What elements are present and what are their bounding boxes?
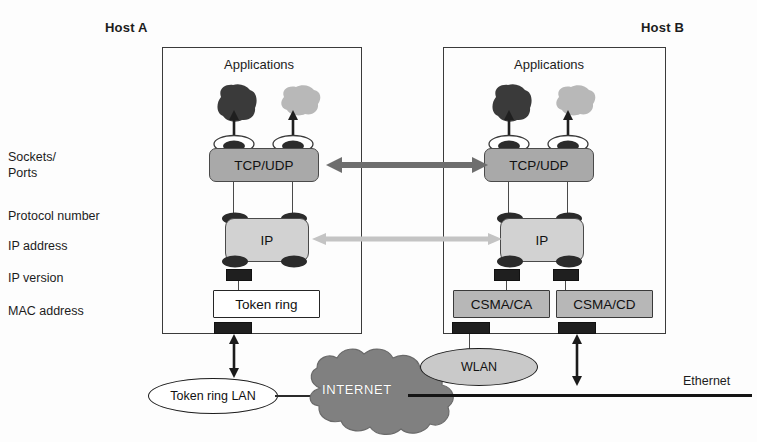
network-ethernet-bus[interactable] (408, 394, 752, 397)
network-stack-diagram: Host A Host B Sockets/ Ports Protocol nu… (0, 0, 757, 442)
host-b-link-box-csma-ca[interactable]: CSMA/CA (453, 290, 550, 318)
host-b-applications-label: Applications (514, 57, 584, 72)
host-b-link-box-csma-cd[interactable]: CSMA/CD (556, 290, 653, 318)
network-token-ring-lan-label: Token ring LAN (170, 389, 255, 403)
host-b-ip-lower-port-left-icon (495, 254, 525, 269)
host-b-internet-label: IP (536, 233, 549, 248)
host-b-link-label-csma-cd: CSMA/CD (573, 297, 635, 312)
host-a-title: Host A (105, 20, 148, 35)
host-b-app-blob-light-icon (552, 84, 598, 118)
host-a-to-token-ring-lan-arrow-icon (227, 334, 241, 378)
network-token-ring-lan[interactable]: Token ring LAN (148, 378, 278, 414)
host-a-mac-address-nub (214, 322, 252, 334)
label-sockets-ports-line2: Ports (8, 166, 37, 181)
host-a-link-label-token-ring: Token ring (235, 297, 297, 312)
host-b-ip-version-nub-left (494, 269, 520, 281)
transport-peer-arrow-icon (326, 155, 488, 175)
network-ethernet-label: Ethernet (683, 374, 730, 389)
host-b-title: Host B (641, 20, 684, 35)
label-protocol-number: Protocol number (8, 209, 100, 224)
label-ip-version: IP version (8, 271, 63, 286)
network-internet-label: INTERNET (322, 382, 392, 397)
internet-peer-arrow-icon (312, 231, 502, 247)
label-ip-address: IP address (8, 239, 68, 254)
host-a-ip-lower-port-left-icon (220, 254, 250, 269)
host-b-ip-version-nub-right (553, 269, 579, 281)
host-b-transport-label: TCP/UDP (509, 158, 568, 173)
host-a-transport-box[interactable]: TCP/UDP (209, 148, 319, 182)
host-a-ip-version-nub (226, 269, 252, 281)
host-a-internet-label: IP (261, 233, 274, 248)
host-a-transport-label: TCP/UDP (234, 158, 293, 173)
host-b-to-ethernet-arrow-icon (570, 334, 584, 386)
host-b-transport-box[interactable]: TCP/UDP (484, 148, 594, 182)
host-b-ip-lower-port-right-icon (554, 254, 584, 269)
network-wlan[interactable]: WLAN (420, 348, 538, 386)
label-sockets-ports-line1: Sockets/ (8, 150, 56, 165)
host-a-applications-label: Applications (224, 57, 294, 72)
host-a-link-box-token-ring[interactable]: Token ring (213, 290, 320, 318)
network-wlan-label: WLAN (461, 360, 497, 374)
host-b-mac-address-nub-left (452, 322, 490, 334)
host-b-mac-address-nub-right (558, 322, 596, 334)
host-a-app-blob-light-icon (277, 84, 323, 118)
host-b-link-label-csma-ca: CSMA/CA (471, 297, 533, 312)
label-mac-address: MAC address (8, 304, 84, 319)
host-a-ip-lower-port-right-icon (279, 254, 309, 269)
